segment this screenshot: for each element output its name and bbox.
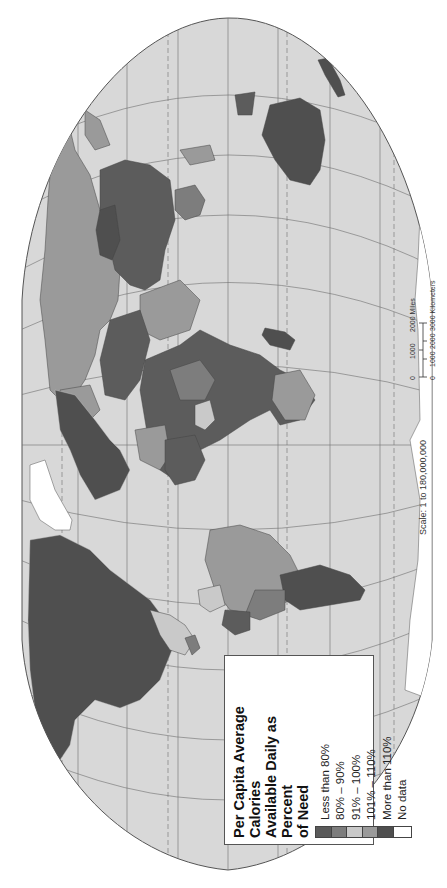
legend-label: More than 110% (381, 736, 393, 820)
legend-item-91-100: 91% – 100% (348, 662, 364, 838)
legend-label: 91% – 100% (350, 755, 362, 820)
legend-item-80-90: 80% – 90% (333, 662, 349, 838)
legend-item-101-110: 101% – 110% (364, 662, 380, 838)
scale-km-0: 0 (429, 376, 436, 380)
legend-title: Per Capita Average Calories Available Da… (231, 662, 311, 838)
legend-item-less-than-80: Less than 80% (317, 662, 333, 838)
scale-km-2000: 2000 (429, 333, 436, 349)
scale-km-unit: 3000 Kilometers (429, 280, 436, 331)
swatch-no-data (393, 826, 412, 838)
legend-label: 80% – 90% (334, 761, 346, 820)
map-legend: Per Capita Average Calories Available Da… (224, 655, 374, 845)
scale-km-1000: 1000 (429, 351, 436, 367)
region-png (235, 92, 255, 115)
legend-item-more-than-110: More than 110% (379, 662, 395, 838)
map-scale: Scale: 1 to 180,000,000 0 1000 2000 Mile… (405, 235, 441, 535)
legend-label: No data (396, 780, 408, 820)
legend-title-line-2: Available Daily as Percent (263, 662, 295, 838)
legend-label: 101% – 110% (365, 749, 377, 820)
legend-label: Less than 80% (319, 744, 331, 820)
scale-mile-unit: 2000 Miles (409, 298, 416, 332)
scale-mile-0: 0 (409, 376, 416, 380)
legend-item-no-data: No data (395, 662, 411, 838)
scale-mile-1000: 1000 (409, 343, 416, 359)
scale-ratio: Scale: 1 to 180,000,000 (418, 440, 428, 535)
legend-title-line-1: Per Capita Average Calories (231, 662, 263, 838)
legend-title-line-3: of Need (295, 662, 311, 838)
